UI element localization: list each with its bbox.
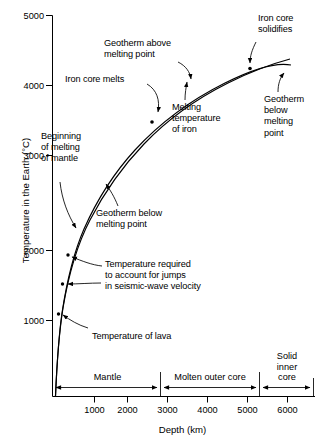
region-label-molten-outer-core: Molten outer core bbox=[162, 372, 258, 383]
leader-geotherm-below-right bbox=[278, 73, 284, 92]
annotation-iron-core-melts: Iron core melts bbox=[65, 74, 124, 85]
region-label-mantle: Mantle bbox=[60, 372, 155, 383]
annotation-iron-core-solidifies: Iron core solidifies bbox=[258, 13, 293, 35]
leader-iron-core-melts bbox=[147, 84, 159, 112]
y-axis-ticks bbox=[46, 16, 53, 321]
annotation-beginning-of-melting-of-mantle: Beginning of melting of mantle bbox=[41, 131, 81, 165]
x-tick-label-2000: 2000 bbox=[107, 405, 148, 415]
data-marker-seismic-jump-lower bbox=[61, 282, 64, 285]
leader-seismic-upper bbox=[72, 257, 102, 266]
x-tick-label-3000: 3000 bbox=[147, 405, 188, 415]
x-tick-label-4000: 4000 bbox=[187, 405, 228, 415]
region-label-solid-inner-core: Solid inner core bbox=[262, 351, 312, 383]
leader-beginning-melting bbox=[60, 182, 76, 228]
leader-geotherm-above bbox=[178, 62, 191, 79]
x-axis-ticks bbox=[95, 397, 288, 403]
leader-iron-core-solidifies bbox=[250, 42, 256, 63]
geotherm-chart-figure: 5000 4000 3000 2000 1000 1000 2000 3000 … bbox=[0, 0, 320, 439]
crossing-point-iron-core-solidifies bbox=[248, 67, 252, 71]
annotation-temperature-of-lava: Temperature of lava bbox=[92, 331, 171, 342]
annotation-melting-temperature-of-iron: Melting temperature of iron bbox=[172, 102, 220, 136]
y-axis-title: Temperature in the Earth (°C) bbox=[20, 106, 31, 296]
annotation-geotherm-above-melting-point: Geotherm above melting point bbox=[104, 38, 171, 60]
leader-geotherm-below-left bbox=[106, 184, 118, 206]
x-tick-label-6000: 6000 bbox=[267, 405, 308, 415]
annotation-geotherm-below-melting-point-left: Geotherm below melting point bbox=[96, 208, 162, 230]
leader-temperature-of-lava bbox=[63, 315, 88, 328]
leader-melting-temp-iron bbox=[185, 82, 187, 100]
x-tick-label-5000: 5000 bbox=[227, 405, 268, 415]
annotation-geotherm-below-melting-point-right: Geotherm below melting point bbox=[264, 94, 304, 139]
leader-seismic-lower bbox=[68, 283, 101, 284]
crossing-point-iron-core-melts bbox=[150, 120, 154, 124]
y-tick-label-4000: 4000 bbox=[6, 81, 44, 91]
x-axis-title: Depth (km) bbox=[45, 424, 320, 435]
y-tick-label-1000: 1000 bbox=[6, 316, 44, 326]
data-marker-seismic-jump-upper bbox=[66, 253, 69, 256]
y-tick-label-5000: 5000 bbox=[6, 11, 44, 21]
annotation-seismic-wave-jumps: Temperature required to account for jump… bbox=[105, 259, 201, 293]
data-marker-lava bbox=[57, 312, 60, 315]
